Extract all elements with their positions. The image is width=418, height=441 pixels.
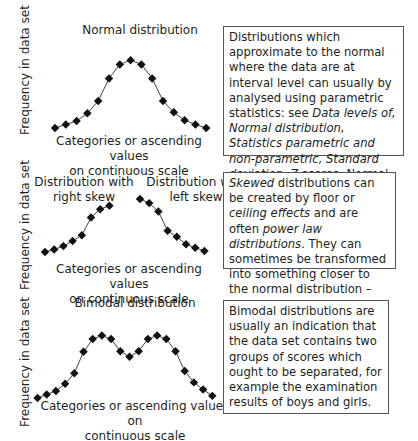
x-axis-label-line1: Categories or ascending values on bbox=[40, 399, 230, 429]
data-point-marker bbox=[136, 195, 144, 203]
data-point-marker bbox=[134, 347, 142, 355]
data-point-marker bbox=[200, 247, 208, 255]
data-point-marker bbox=[42, 390, 50, 398]
data-point-marker bbox=[125, 353, 133, 361]
data-point-marker bbox=[116, 347, 124, 355]
data-point-marker bbox=[162, 335, 170, 343]
data-point-marker bbox=[171, 347, 179, 355]
data-point-marker bbox=[163, 227, 171, 235]
data-point-marker bbox=[153, 331, 161, 339]
data-point-marker bbox=[88, 335, 96, 343]
data-point-marker bbox=[98, 331, 106, 339]
bimodal-distribution-description: Bimodal distributions are usually an ind… bbox=[223, 300, 389, 414]
x-axis-label-line2: continuous scale bbox=[40, 429, 230, 441]
description-text: Bimodal distributions are usually an ind… bbox=[229, 304, 382, 409]
x-axis-label-panel-3: Categories or ascending values on contin… bbox=[40, 399, 230, 441]
data-point-marker bbox=[107, 335, 115, 343]
data-point-marker bbox=[144, 335, 152, 343]
data-point-marker bbox=[199, 385, 207, 393]
data-point-marker bbox=[191, 243, 199, 251]
data-point-marker bbox=[52, 387, 60, 395]
data-point-marker bbox=[79, 348, 87, 356]
